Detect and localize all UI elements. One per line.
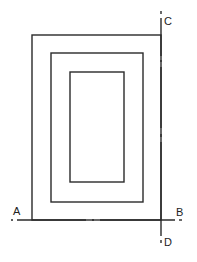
diagram-canvas: A B C D xyxy=(0,0,197,262)
label-c: C xyxy=(164,15,172,27)
inner-rectangle xyxy=(70,72,124,182)
label-a: A xyxy=(13,205,21,217)
label-d: D xyxy=(164,236,172,248)
label-b: B xyxy=(176,206,183,218)
middle-rectangle xyxy=(51,53,143,202)
